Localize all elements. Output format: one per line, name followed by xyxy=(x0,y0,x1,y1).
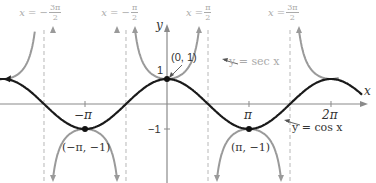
asymptote-label: x = π2 xyxy=(186,3,211,22)
x-tick-label-2pi: 2π xyxy=(322,108,338,122)
asymptote-label: x = 3π2 xyxy=(268,3,299,22)
x-tick-label-neg-pi: −π xyxy=(74,108,92,122)
y-tick-label-1: 1 xyxy=(157,64,163,76)
point-label-pi-neg1: (π, −1) xyxy=(231,141,270,154)
y-axis-label: y xyxy=(156,18,163,32)
y-tick-label-neg1: −1 xyxy=(148,123,161,135)
sec-curve-label: y = sec x xyxy=(229,55,279,68)
x-axis-label: x xyxy=(364,84,371,98)
point-label-0-1: (0, 1) xyxy=(171,51,197,63)
asymptote-label: x = −3π2 xyxy=(19,3,61,22)
point-label-neg-pi-neg1: (−π, −1) xyxy=(62,141,110,154)
x-tick-label-pi: π xyxy=(244,108,252,122)
cos-curve-label: y = cos x xyxy=(292,121,343,134)
asymptote-label: x = −π2 xyxy=(101,3,138,22)
